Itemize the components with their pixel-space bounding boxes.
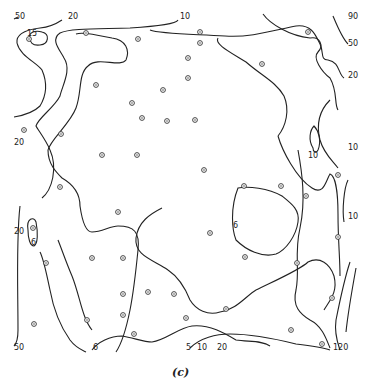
contour-label: 10 xyxy=(180,12,190,21)
sample-points xyxy=(22,30,341,347)
contour-label: 20 xyxy=(68,12,78,21)
contour-label: 90 xyxy=(348,12,358,21)
contour-label: 120 xyxy=(333,343,348,352)
contour-label: 20 xyxy=(14,138,24,147)
figure-caption: (c) xyxy=(172,366,189,379)
contour-label: 20 xyxy=(348,71,358,80)
contour-label: 10 xyxy=(348,143,358,152)
contour-label: 20 xyxy=(14,227,24,236)
contour-lines xyxy=(14,14,356,352)
contour-label: 6 xyxy=(93,343,98,352)
contour-label: 5 xyxy=(186,343,191,352)
contour-label: 50 xyxy=(14,343,24,352)
contour-label: 6 xyxy=(233,221,238,230)
contour-label: 10 xyxy=(197,343,207,352)
contour-label: 10 xyxy=(308,151,318,160)
contour-label: 10 xyxy=(348,212,358,221)
contour-label: 15 xyxy=(27,29,37,38)
contour-labels: 5020109050201020101020665065102012015 xyxy=(14,12,358,352)
contour-label: 50 xyxy=(348,39,358,48)
contour-map: 5020109050201020101020665065102012015 xyxy=(0,0,370,389)
contour-label: 20 xyxy=(217,343,227,352)
contour-label: 50 xyxy=(15,12,25,21)
contour-label: 6 xyxy=(31,238,36,247)
